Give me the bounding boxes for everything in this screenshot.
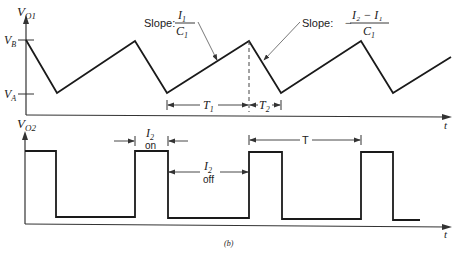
slope2-denominator: C1 bbox=[363, 24, 375, 40]
figure-caption: (b) bbox=[224, 239, 234, 248]
top-x-axis bbox=[26, 115, 448, 117]
bottom-plot bbox=[22, 131, 452, 230]
slope2-prefix: Slope: bbox=[302, 17, 333, 29]
slope2-pointer bbox=[264, 22, 300, 60]
va-label: VA bbox=[4, 87, 16, 103]
i2-off-label: I2 bbox=[203, 159, 212, 175]
vo2-square-wave bbox=[25, 151, 420, 220]
vo2-label: VO2 bbox=[17, 116, 36, 133]
slope1-prefix: Slope: bbox=[144, 17, 175, 29]
slope1-numerator: I1 bbox=[177, 8, 186, 24]
period-label: T bbox=[302, 134, 309, 146]
vo1-triangle-wave bbox=[26, 40, 451, 93]
i2-on-text: on bbox=[145, 140, 156, 151]
slope2-numerator: I₂ − I₁ bbox=[351, 8, 382, 22]
i2-off-text: off bbox=[203, 174, 214, 185]
vb-label: VB bbox=[4, 33, 16, 49]
vo1-label: VO1 bbox=[17, 4, 36, 21]
slope1-denominator: C1 bbox=[176, 24, 188, 40]
top-plot bbox=[18, 15, 452, 120]
slope1-pointer bbox=[198, 22, 217, 60]
waveform-diagram: VO1 VB VA Slope: I1 C1 Slope: − I₂ − I₁ … bbox=[0, 0, 460, 254]
t2-label: T2 bbox=[259, 98, 270, 114]
bottom-x-axis bbox=[25, 224, 448, 227]
top-t-label: t bbox=[444, 119, 448, 131]
t1-label: T1 bbox=[203, 98, 214, 114]
bottom-t-label: t bbox=[444, 228, 448, 240]
